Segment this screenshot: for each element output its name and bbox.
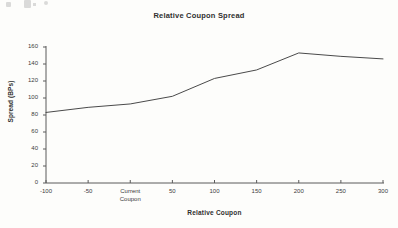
series-line bbox=[46, 53, 383, 112]
x-tick-label: 300 bbox=[356, 188, 398, 196]
y-tick-label: 120 bbox=[12, 77, 38, 83]
y-tick-label: 0 bbox=[12, 179, 38, 185]
y-tick-label: 140 bbox=[12, 60, 38, 66]
data-series bbox=[46, 53, 383, 112]
y-tick-label: 160 bbox=[12, 43, 38, 49]
axes bbox=[46, 46, 384, 183]
y-tick-label: 80 bbox=[12, 111, 38, 117]
x-axis-label: Relative Coupon bbox=[46, 209, 383, 216]
y-tick-label: 20 bbox=[12, 162, 38, 168]
y-tick-label: 100 bbox=[12, 94, 38, 100]
chart-title: Relative Coupon Spread bbox=[0, 11, 398, 20]
y-tick-label: 40 bbox=[12, 145, 38, 151]
relative-coupon-spread-chart: Relative Coupon Spread Spread (BPs) Rela… bbox=[0, 0, 398, 228]
y-tick-label: 60 bbox=[12, 128, 38, 134]
axis-ticks bbox=[43, 47, 383, 183]
